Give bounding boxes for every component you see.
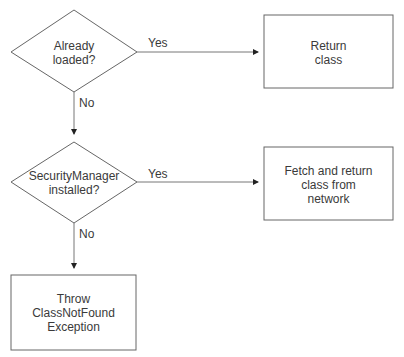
label-line: Throw [11,292,136,306]
box-3-label: Throw ClassNotFound Exception [11,292,136,334]
label-line: class from [264,178,393,192]
edge-label-no-1: No [79,96,94,110]
label-line: class [264,53,393,67]
edge-label-yes-1: Yes [148,36,168,50]
label-line: installed? [20,183,128,197]
label-line: SecurityManager [20,169,128,183]
label-line: Fetch and return [264,164,393,178]
box-2-label: Fetch and return class from network [264,164,393,206]
edge-label-no-2: No [79,227,94,241]
edge-label-yes-2: Yes [148,167,168,181]
decision-1-label: Already loaded? [34,39,114,67]
label-line: ClassNotFound [11,306,136,320]
label-line: Already [34,39,114,53]
label-line: loaded? [34,53,114,67]
box-1-label: Return class [264,39,393,67]
decision-2-label: SecurityManager installed? [20,169,128,197]
label-line: Exception [11,320,136,334]
label-line: Return [264,39,393,53]
label-line: network [264,192,393,206]
